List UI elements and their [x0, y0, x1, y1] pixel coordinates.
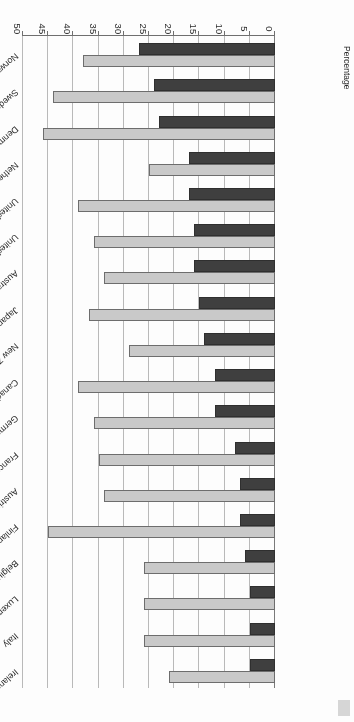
bar-light	[89, 309, 275, 321]
bar-light	[144, 598, 275, 610]
category-label: Canada	[0, 377, 20, 406]
bar-chart-figure: Percentage 05101520253035404550 IrelandI…	[0, 0, 354, 722]
category-label: Luxembourg	[0, 595, 20, 636]
bar-dark	[139, 43, 275, 55]
bar-light	[53, 91, 275, 103]
bar-dark	[240, 514, 275, 526]
axis-tick-label: 35	[88, 14, 99, 44]
chart-page: Percentage 05101520253035404550 IrelandI…	[0, 0, 354, 722]
bar-dark	[250, 623, 275, 635]
bar-light	[78, 381, 275, 393]
category-label: Ireland	[0, 667, 20, 693]
bar-light	[104, 272, 275, 284]
bar-light	[99, 454, 275, 466]
bar-light	[43, 128, 275, 140]
axis-tick-label: 10	[214, 14, 225, 44]
axis-tick-label: 5	[239, 14, 250, 44]
bar-light	[144, 562, 275, 574]
axis-tick-label: 45	[37, 14, 48, 44]
bar-light	[144, 635, 275, 647]
bar-dark	[199, 297, 275, 309]
category-label: Norway	[0, 51, 20, 79]
category-label: Sweden	[0, 88, 20, 117]
bar-dark	[215, 369, 275, 381]
category-label: Austria	[0, 486, 20, 512]
bar-light	[78, 200, 275, 212]
category-label: United States	[0, 196, 20, 240]
bar-dark	[159, 116, 275, 128]
value-axis-line	[23, 35, 275, 36]
bar-dark	[154, 79, 275, 91]
bar-dark	[240, 478, 275, 490]
bar-dark	[204, 333, 275, 345]
axis-title: Percentage	[342, 46, 352, 89]
category-label: Germany	[0, 414, 20, 446]
axis-tick-label: 15	[188, 14, 199, 44]
bar-dark	[189, 188, 275, 200]
bar-light	[94, 417, 275, 429]
bar-dark	[194, 224, 275, 236]
category-label: Belgium	[0, 559, 20, 588]
bar-dark	[245, 550, 275, 562]
category-label: New Zealand	[0, 341, 20, 384]
category-label: Denmark	[0, 124, 20, 156]
bar-light	[48, 526, 275, 538]
category-label: Italy	[1, 631, 20, 649]
axis-tick-label: 30	[113, 14, 124, 44]
bar-light	[169, 671, 275, 683]
category-label: Finland	[0, 522, 20, 549]
category-label: Japan	[0, 305, 20, 329]
bar-dark	[189, 152, 275, 164]
axis-tick-label: 40	[62, 14, 73, 44]
bar-dark	[215, 405, 275, 417]
gridline	[22, 36, 23, 688]
bar-light	[149, 164, 275, 176]
category-label: France	[0, 450, 20, 476]
legend-swatch-icon	[338, 700, 350, 716]
axis-tick-label: 20	[163, 14, 174, 44]
bar-light	[104, 490, 275, 502]
rotated-figure-wrapper: Percentage 05101520253035404550 IrelandI…	[0, 0, 354, 722]
axis-tick-label: 50	[12, 14, 23, 44]
axis-tick-label: 25	[138, 14, 149, 44]
category-label: Netherlands	[0, 160, 20, 200]
bar-dark	[250, 659, 275, 671]
bar-light	[129, 345, 275, 357]
bar-dark	[194, 260, 275, 272]
category-label: Australia	[0, 269, 20, 300]
bar-dark	[250, 586, 275, 598]
bar-light	[83, 55, 275, 67]
axis-tick-label: 0	[264, 14, 275, 44]
bar-dark	[235, 442, 275, 454]
bar-light	[94, 236, 275, 248]
